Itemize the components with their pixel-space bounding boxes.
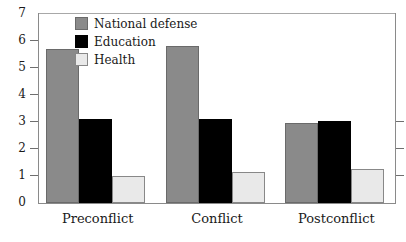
legend-swatch-icon-health — [75, 53, 88, 66]
legend-item-education: Education — [75, 34, 197, 49]
x-axis-line — [38, 203, 396, 204]
legend-swatch-icon-national-defense — [75, 17, 88, 30]
x-axis-label-postconflict: Postconflict — [277, 210, 396, 228]
y-tick-mark-right — [396, 175, 404, 176]
y-tick-mark-right — [396, 148, 404, 149]
y-tick-label: 7 — [8, 5, 26, 21]
bar-postconflict-education — [318, 121, 351, 203]
legend-label-national-defense: National defense — [94, 17, 197, 31]
legend-label-health: Health — [94, 53, 135, 67]
y-tick-mark — [30, 67, 38, 68]
y-tick-mark — [30, 40, 38, 41]
bar-conflict-health — [232, 172, 265, 203]
bar-preconflict-education — [79, 119, 112, 203]
bar-postconflict-health — [351, 169, 384, 203]
y-tick-label: 1 — [8, 167, 26, 183]
y-tick-label: 0 — [8, 194, 26, 210]
y-tick-mark-right — [396, 121, 404, 122]
y-tick-label: 6 — [8, 32, 26, 48]
y-tick-mark — [30, 94, 38, 95]
legend-swatch-icon-education — [75, 35, 88, 48]
legend-item-health: Health — [75, 52, 197, 67]
x-axis-label-conflict: Conflict — [157, 210, 276, 228]
y-tick-mark — [30, 175, 38, 176]
legend-item-national-defense: National defense — [75, 16, 197, 31]
y-tick-mark — [30, 121, 38, 122]
bar-conflict-national-defense — [166, 46, 199, 203]
bar-postconflict-national-defense — [285, 123, 318, 203]
y-tick-label: 3 — [8, 113, 26, 129]
bar-group-postconflict — [285, 14, 384, 203]
legend: National defense Education Health — [75, 16, 197, 67]
y-tick-mark — [30, 148, 38, 149]
y-tick-label: 4 — [8, 86, 26, 102]
bar-conflict-education — [199, 119, 232, 203]
bar-chart: 01234567 PreconflictConflictPostconflict… — [0, 0, 406, 242]
bar-preconflict-national-defense — [46, 49, 79, 203]
legend-label-education: Education — [94, 35, 156, 49]
y-tick-label: 2 — [8, 140, 26, 156]
bar-preconflict-health — [112, 176, 145, 203]
y-tick-label: 5 — [8, 59, 26, 75]
x-axis-label-preconflict: Preconflict — [38, 210, 157, 228]
